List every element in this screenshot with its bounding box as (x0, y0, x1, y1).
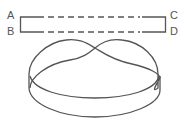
strip-right-end (142, 17, 166, 32)
corner-label-d: D (170, 26, 178, 37)
corner-label-a: A (7, 10, 14, 21)
twisted-band (29, 40, 160, 117)
mobius-diagram (0, 0, 186, 126)
corner-label-c: C (170, 10, 178, 21)
strip-left-end (21, 17, 45, 32)
band-bottom-edge (29, 74, 160, 117)
band-front-rim (30, 76, 159, 98)
paper-strip (21, 17, 166, 32)
band-top-edge-left (29, 40, 160, 78)
corner-label-b: B (7, 26, 14, 37)
